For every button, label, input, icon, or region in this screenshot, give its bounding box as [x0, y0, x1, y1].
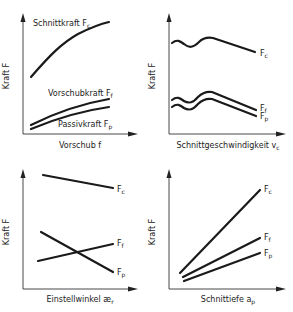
curve-ff: [38, 244, 113, 261]
label-ff: Ff: [117, 239, 125, 249]
y-axis-arrow-icon: [21, 169, 26, 178]
x-label: Schnittgeschwindigkeit vc: [176, 141, 279, 151]
curve-fc: [172, 38, 255, 52]
x-axis-arrow-icon: [128, 287, 138, 292]
x-axis-arrow-icon: [276, 132, 286, 137]
y-label: Kraft F: [148, 218, 157, 245]
label-fc: Fc: [260, 49, 268, 59]
panel-depth-of-cut: Fc Ff Fp Kraft F Schnittiefe ap: [148, 169, 286, 306]
curve-fc: [31, 22, 109, 77]
y-axis-arrow-icon: [167, 13, 172, 22]
label-fp: Fp: [264, 249, 273, 260]
y-label: Kraft F: [2, 62, 11, 89]
curve-fp: [41, 232, 113, 272]
label-fp: Passivkraft Fp: [58, 120, 112, 131]
cutting-force-diagrams: Schnittkraft Fc Vorschubkraft Ff Passivk…: [0, 0, 293, 312]
label-fp: Fp: [117, 268, 126, 279]
label-ff: Vorschubkraft Ff: [48, 89, 114, 99]
curve-fc: [180, 190, 260, 273]
label-fc: Schnittkraft Fc: [33, 19, 90, 29]
panel-setting-angle: Fc Ff Fp Kraft F Einstellwinkel ær: [2, 169, 138, 305]
x-axis-arrow-icon: [276, 287, 286, 292]
y-axis-arrow-icon: [167, 169, 172, 178]
panel-cutting-speed: Fc Ff Fp Kraft F Schnittgeschwindigkeit …: [148, 13, 286, 151]
x-label: Vorschub f: [59, 141, 101, 150]
y-label: Kraft F: [148, 62, 157, 89]
label-fc: Fc: [264, 185, 272, 195]
label-fp: Fp: [260, 112, 269, 123]
y-label: Kraft F: [2, 218, 11, 245]
curve-fc: [43, 175, 113, 188]
x-label: Schnittiefe ap: [201, 295, 255, 306]
label-ff: Ff: [264, 233, 272, 243]
panel-feed: Schnittkraft Fc Vorschubkraft Ff Passivk…: [2, 13, 138, 150]
x-label: Einstellwinkel ær: [46, 295, 114, 305]
x-axis-arrow-icon: [128, 132, 138, 137]
label-fc: Fc: [117, 185, 125, 195]
y-axis-arrow-icon: [21, 13, 26, 22]
